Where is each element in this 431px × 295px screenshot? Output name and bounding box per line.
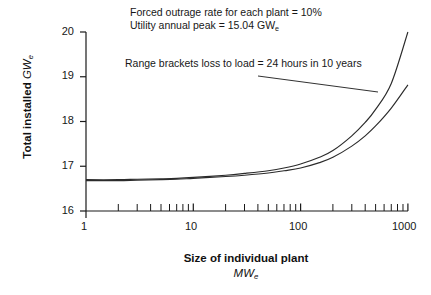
y-tick-label-19: 19 — [52, 69, 74, 81]
x-tick-label-100: 100 — [289, 220, 307, 232]
y-axis-title: Total installed GWe — [21, 37, 35, 177]
x-tick-label-1: 1 — [81, 220, 87, 232]
annotation-range-brackets: Range brackets loss to load = 24 hours i… — [125, 57, 362, 70]
chart-plot-area — [0, 0, 431, 295]
y-axis-unit-subscript: e — [26, 55, 35, 59]
x-axis-minor-ticks — [118, 204, 403, 211]
x-axis-unit: MWe — [86, 267, 406, 281]
x-axis-unit-text: MW — [234, 267, 254, 279]
x-tick-label-10: 10 — [185, 220, 197, 232]
curve-upper-bound — [86, 32, 408, 180]
curve-lower-bound — [86, 85, 408, 181]
annotation-forced-outage-rate: Forced outrage rate for each plant = 10% — [130, 6, 322, 19]
y-axis-unit: GWe — [21, 55, 33, 79]
y-tick-label-20: 20 — [52, 25, 74, 37]
annotation-utility-subscript: e — [275, 25, 279, 33]
annotation-utility-text: Utility annual peak = 15.04 GW — [130, 19, 275, 31]
x-axis-unit-subscript: e — [254, 272, 258, 281]
y-tick-label-18: 18 — [52, 114, 74, 126]
y-tick-label-16: 16 — [52, 204, 74, 216]
x-axis-title: Size of individual plant — [86, 252, 406, 264]
x-tick-label-1000: 1000 — [392, 220, 416, 232]
y-axis-ticks — [80, 32, 86, 211]
annotation-leader-line — [258, 76, 378, 92]
y-axis-title-text: Total installed — [21, 82, 33, 158]
y-tick-label-17: 17 — [52, 159, 74, 171]
annotation-utility-annual-peak: Utility annual peak = 15.04 GWe — [130, 19, 279, 36]
y-axis-unit-text: GW — [21, 59, 33, 79]
chart-container: Forced outrage rate for each plant = 10%… — [0, 0, 431, 295]
